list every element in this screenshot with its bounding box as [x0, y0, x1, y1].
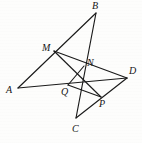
vertex-label-N: N: [87, 58, 94, 68]
vertex-label-D: D: [129, 66, 136, 76]
vertex-label-C: C: [72, 124, 79, 134]
vertex-label-M: M: [42, 43, 50, 53]
vertex-label-B: B: [92, 1, 98, 11]
vertex-label-Q: Q: [61, 87, 68, 97]
geometry-line-drawing: [0, 0, 142, 143]
geometry-figure: A B C D M N P Q: [0, 0, 142, 143]
vertex-label-A: A: [6, 85, 12, 95]
segments-group: [18, 13, 127, 118]
segment-Q-P: [68, 85, 101, 97]
vertex-label-P: P: [99, 99, 105, 109]
